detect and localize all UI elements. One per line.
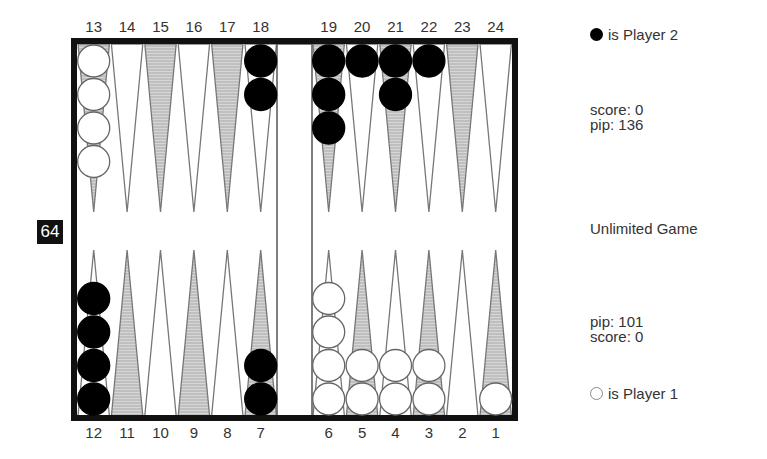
point-14[interactable]	[111, 44, 142, 212]
player1-legend: is Player 1	[590, 385, 678, 402]
point-11[interactable]	[111, 250, 142, 416]
point-label-7: 7	[246, 424, 276, 441]
white-checker-point-5[interactable]	[346, 350, 378, 382]
point-label-12: 12	[79, 424, 109, 441]
white-checker-point-6[interactable]	[313, 283, 345, 315]
black-checker-icon	[590, 28, 603, 41]
black-checker-point-21[interactable]	[380, 45, 412, 77]
white-checker-point-13[interactable]	[78, 45, 110, 77]
point-2[interactable]	[447, 250, 478, 416]
point-23[interactable]	[447, 44, 478, 212]
black-checker-point-20[interactable]	[346, 45, 378, 77]
point-label-10: 10	[146, 424, 176, 441]
black-checker-point-12[interactable]	[78, 283, 110, 315]
white-checker-point-6[interactable]	[313, 350, 345, 382]
white-checker-point-3[interactable]	[413, 383, 445, 415]
point-15[interactable]	[145, 44, 176, 212]
point-label-17: 17	[212, 18, 242, 35]
point-label-15: 15	[146, 18, 176, 35]
black-checker-point-19[interactable]	[313, 112, 345, 144]
black-checker-point-12[interactable]	[78, 316, 110, 348]
point-10[interactable]	[145, 250, 176, 416]
white-checker-point-1[interactable]	[480, 383, 512, 415]
point-label-9: 9	[179, 424, 209, 441]
white-checker-icon	[590, 387, 603, 400]
point-label-20: 20	[347, 18, 377, 35]
black-checker-point-19[interactable]	[313, 79, 345, 111]
point-label-19: 19	[314, 18, 344, 35]
doubling-cube[interactable]: 64	[37, 220, 63, 244]
white-checker-point-5[interactable]	[346, 383, 378, 415]
black-checker-point-19[interactable]	[313, 45, 345, 77]
point-label-4: 4	[381, 424, 411, 441]
white-checker-point-6[interactable]	[313, 383, 345, 415]
player2-legend: is Player 2	[590, 26, 678, 43]
point-label-13: 13	[79, 18, 109, 35]
bar[interactable]	[277, 44, 312, 416]
point-label-3: 3	[414, 424, 444, 441]
black-checker-point-12[interactable]	[78, 383, 110, 415]
white-checker-point-13[interactable]	[78, 146, 110, 178]
point-label-16: 16	[179, 18, 209, 35]
black-checker-point-12[interactable]	[78, 350, 110, 382]
black-checker-point-7[interactable]	[245, 350, 277, 382]
player2-pip: pip: 136	[590, 116, 643, 133]
point-8[interactable]	[212, 250, 243, 416]
point-24[interactable]	[480, 44, 511, 212]
point-label-5: 5	[347, 424, 377, 441]
game-type: Unlimited Game	[590, 220, 698, 237]
point-label-11: 11	[112, 424, 142, 441]
point-label-18: 18	[246, 18, 276, 35]
player1-score: score: 0	[590, 328, 643, 345]
white-checker-point-4[interactable]	[380, 350, 412, 382]
point-9[interactable]	[178, 250, 209, 416]
black-checker-point-18[interactable]	[245, 79, 277, 111]
point-label-23: 23	[447, 18, 477, 35]
point-label-24: 24	[481, 18, 511, 35]
point-label-22: 22	[414, 18, 444, 35]
point-label-8: 8	[212, 424, 242, 441]
point-label-1: 1	[481, 424, 511, 441]
white-checker-point-3[interactable]	[413, 350, 445, 382]
point-16[interactable]	[178, 44, 209, 212]
point-label-2: 2	[447, 424, 477, 441]
black-checker-point-21[interactable]	[380, 79, 412, 111]
black-checker-point-22[interactable]	[413, 45, 445, 77]
black-checker-point-18[interactable]	[245, 45, 277, 77]
white-checker-point-13[interactable]	[78, 79, 110, 111]
white-checker-point-4[interactable]	[380, 383, 412, 415]
point-17[interactable]	[212, 44, 243, 212]
white-checker-point-6[interactable]	[313, 316, 345, 348]
point-label-14: 14	[112, 18, 142, 35]
black-checker-point-7[interactable]	[245, 383, 277, 415]
point-label-6: 6	[314, 424, 344, 441]
point-label-21: 21	[381, 18, 411, 35]
white-checker-point-13[interactable]	[78, 112, 110, 144]
